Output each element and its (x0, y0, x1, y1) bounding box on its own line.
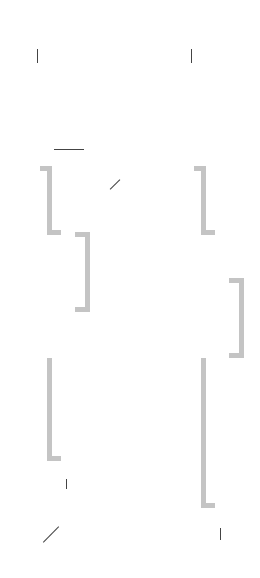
insulin-disulfide-a6-a11-foot (229, 353, 243, 358)
insulin-diagram (0, 0, 260, 578)
proinsulin-c-bond (66, 479, 67, 489)
insulin-disulfide-b7-a7 (201, 166, 206, 234)
insulin-disulfide-b19-a20 (201, 358, 206, 508)
cleavage-mark-arg65-gly1 (54, 149, 84, 150)
proinsulin-n-bond (37, 49, 38, 63)
insulin-n-bond (191, 49, 192, 63)
disulfide-bond-a6-a11-foot (75, 307, 89, 312)
insulin-disulfide-b7-a7-head (194, 166, 204, 171)
insulin-disulfide-b7-a7-foot (201, 230, 215, 235)
insulin-disulfide-b19-a20-foot (201, 503, 215, 508)
connecting-peptide-pointer (110, 179, 121, 190)
disulfide-bond-b7-a7-foot (47, 230, 61, 235)
disulfide-bond-b19-a20-foot (47, 456, 61, 461)
disulfide-bond-b19-a20 (47, 358, 52, 460)
insulin-c-bond (220, 528, 221, 540)
insulin-disulfide-a6-a11-bar (239, 278, 244, 358)
disulfide-bond-b7-a7-head (40, 166, 50, 171)
cleavage-mark-thr30-arg31 (43, 526, 59, 542)
disulfide-bond-a6-a11-bar (85, 232, 90, 312)
disulfide-bond-b7-a7 (47, 166, 52, 234)
